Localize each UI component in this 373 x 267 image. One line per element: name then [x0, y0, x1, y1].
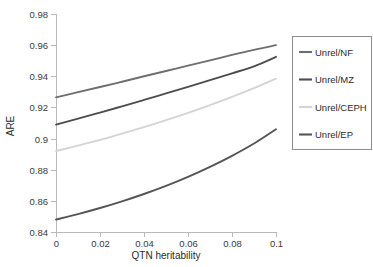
y-axis-title: ARE [5, 115, 16, 136]
line-chart: 0.840.860.880.90.920.940.960.98 00.020.0… [0, 0, 373, 267]
y-tick-label: 0.92 [30, 102, 49, 113]
legend: Unrel/NFUnrel/MZUnrel/CEPHUnrel/EP [293, 37, 372, 150]
y-tick-label: 0.88 [30, 165, 49, 176]
chart-figure: 0.840.860.880.90.920.940.960.98 00.020.0… [0, 0, 373, 267]
y-tick-label: 0.86 [30, 196, 49, 207]
legend-label: Unrel/NF [315, 47, 353, 58]
x-tick-label: 0 [54, 238, 59, 249]
x-tick-label: 0.02 [91, 238, 110, 249]
y-tick-label: 0.9 [35, 134, 48, 145]
y-tick-label: 0.96 [30, 40, 49, 51]
legend-label: Unrel/EP [315, 129, 353, 140]
x-tick-label: 0.08 [223, 238, 242, 249]
x-tick-label: 0.06 [179, 238, 198, 249]
y-axis-ticks: 0.840.860.880.90.920.940.960.98 [30, 9, 57, 238]
y-tick-label: 0.94 [30, 71, 49, 82]
plot-background [56, 14, 276, 232]
x-axis-title: QTN heritability [132, 250, 201, 261]
x-tick-label: 0.1 [270, 238, 283, 249]
x-tick-label: 0.04 [135, 238, 154, 249]
legend-label: Unrel/CEPH [315, 102, 367, 113]
legend-label: Unrel/MZ [315, 74, 354, 85]
y-tick-label: 0.98 [30, 9, 49, 20]
y-tick-label: 0.84 [30, 227, 49, 238]
x-axis-ticks: 00.020.040.060.080.1 [54, 232, 283, 249]
